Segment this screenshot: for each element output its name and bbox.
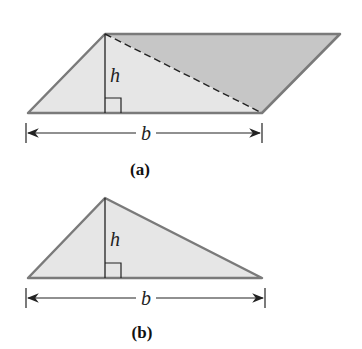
figure-a: h b (a): [26, 34, 340, 179]
figure-b: h b (b): [26, 198, 265, 342]
base-label: b: [141, 122, 151, 144]
base-label: b: [141, 287, 151, 309]
diagram-canvas: h b (a) h b (b): [0, 0, 362, 349]
height-label: h: [110, 64, 120, 86]
height-label: h: [110, 228, 120, 250]
caption-b: (b): [132, 323, 153, 342]
caption-a: (a): [130, 160, 150, 179]
triangle: [28, 198, 262, 278]
